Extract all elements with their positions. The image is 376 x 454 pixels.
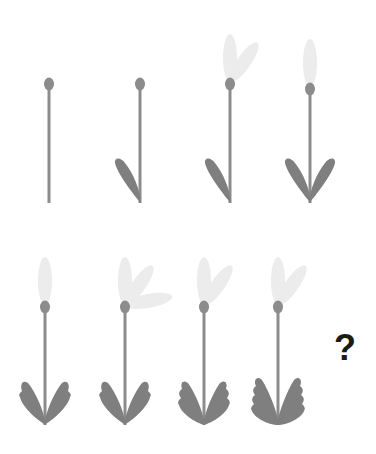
question-mark: ? xyxy=(330,326,360,370)
bud-icon xyxy=(273,301,283,314)
bud-icon xyxy=(120,301,130,314)
bud-icon xyxy=(40,301,50,314)
left-leaf-icon xyxy=(285,159,311,204)
flower-figure-4 xyxy=(285,39,335,203)
bud-icon xyxy=(225,78,235,91)
bud-icon xyxy=(305,83,315,96)
petal-icon xyxy=(303,39,317,87)
flower-figure-6 xyxy=(99,257,173,425)
left-leaf-icon xyxy=(251,378,279,425)
bud-icon xyxy=(135,78,145,91)
flower-sequence-puzzle xyxy=(0,0,376,454)
right-leaf-icon xyxy=(203,381,230,425)
left-leaf-icon xyxy=(205,159,231,204)
left-leaf-icon xyxy=(19,382,46,425)
flower-figure-8 xyxy=(251,257,311,425)
flower-figure-7 xyxy=(178,257,237,425)
flower-figure-1 xyxy=(44,78,54,204)
petal-icon xyxy=(38,257,52,305)
flower-figure-2 xyxy=(115,78,145,204)
bud-icon xyxy=(44,78,54,91)
left-leaf-icon xyxy=(99,382,126,425)
flower-figure-5 xyxy=(19,257,71,425)
right-leaf-icon xyxy=(124,382,151,425)
right-leaf-icon xyxy=(277,378,305,425)
bud-icon xyxy=(199,301,209,314)
right-leaf-icon xyxy=(44,382,71,425)
left-leaf-icon xyxy=(115,159,141,204)
left-leaf-icon xyxy=(178,381,205,425)
flower-figure-3 xyxy=(205,34,263,203)
right-leaf-icon xyxy=(309,159,335,204)
